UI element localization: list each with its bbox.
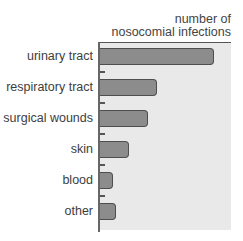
bar-row: respiratory tract xyxy=(0,79,243,96)
bar xyxy=(100,172,113,189)
axis-tick xyxy=(100,195,105,197)
category-label: other xyxy=(65,203,94,220)
bar xyxy=(100,79,157,96)
bar-row: blood xyxy=(0,172,243,189)
axis-tick xyxy=(100,102,105,104)
plot-area xyxy=(99,42,231,230)
category-label: skin xyxy=(71,141,93,158)
axis-tick xyxy=(100,164,105,166)
bar-row: urinary tract xyxy=(0,48,243,65)
bar-row: surgical wounds xyxy=(0,110,243,127)
category-label: blood xyxy=(62,172,93,189)
bar-row: skin xyxy=(0,141,243,158)
bar-row: other xyxy=(0,203,243,220)
chart-title: number of nosocomial infections xyxy=(111,13,231,39)
bar xyxy=(100,110,148,127)
bar xyxy=(100,141,129,158)
axis-tick xyxy=(100,133,105,135)
category-label: respiratory tract xyxy=(6,79,93,96)
axis-tick xyxy=(100,71,105,73)
category-label: urinary tract xyxy=(27,48,93,65)
category-label: surgical wounds xyxy=(3,110,93,127)
bar xyxy=(100,48,214,65)
title-line-2: nosocomial infections xyxy=(111,26,231,39)
bar xyxy=(100,203,116,220)
